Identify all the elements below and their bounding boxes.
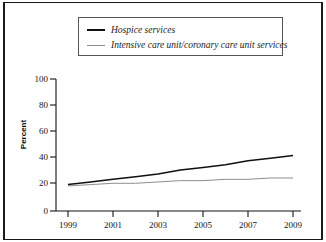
data-line-icu-ccu-services — [68, 178, 293, 186]
chart-figure: Hospice services Intensive care unit/cor… — [0, 0, 326, 242]
x-axis-ticks — [68, 211, 293, 217]
y-axis-ticks — [50, 79, 56, 211]
chart-plot-area — [0, 0, 326, 242]
axis-lines — [56, 79, 301, 211]
